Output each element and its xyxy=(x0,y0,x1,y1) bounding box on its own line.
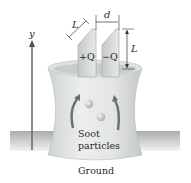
soot-particle xyxy=(85,100,93,108)
positive-charge-label: +Q xyxy=(79,52,95,62)
negative-charge-label: −Q xyxy=(102,52,118,62)
separation-label: d xyxy=(104,10,110,20)
electrode-width-label: L xyxy=(72,20,79,30)
ground-label: Ground xyxy=(78,166,114,176)
soot-label-line1: Soot xyxy=(78,129,100,139)
y-axis-label: y xyxy=(29,29,35,39)
precipitator-diagram: y L d L +Q −Q Soot particles Ground xyxy=(0,0,191,183)
electrode-height-label: L xyxy=(131,44,138,54)
y-axis-arrowhead xyxy=(29,40,35,47)
soot-particle xyxy=(97,113,105,121)
dim-height-arrow-top xyxy=(125,30,129,34)
soot-label-line2: particles xyxy=(78,141,120,151)
